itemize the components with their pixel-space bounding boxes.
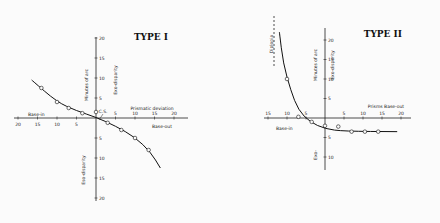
data-point (40, 86, 44, 90)
data-point (337, 125, 341, 129)
data-point (323, 124, 327, 128)
x-tick-label: 20 (398, 111, 404, 116)
y-tick-label: 10 (328, 155, 334, 160)
x-tick-label: 15 (379, 111, 385, 116)
data-point (55, 100, 59, 104)
data-point (106, 121, 110, 125)
x-tick-label: 10 (54, 122, 60, 127)
y-tick-label: 5 (99, 136, 102, 141)
x-tick-label: 5 (114, 111, 117, 116)
chart-title: TYPE II (364, 29, 402, 39)
exo-disparity-label: Exo-disparity (330, 50, 335, 80)
x-tick-label: 10 (132, 111, 138, 116)
exo-label: Exo- (313, 150, 318, 160)
chart-type-2: 1510551015202015105510TYPE IIPrisms Base… (264, 16, 411, 170)
y-tick-label: 20 (99, 36, 105, 41)
y-tick-label: 5 (99, 96, 102, 101)
x-tick-label: 5 (305, 111, 308, 116)
diplopia-label: Diplopia (269, 35, 274, 54)
eso-disparity-label: Eso-disparity (81, 155, 86, 185)
data-point (133, 136, 137, 140)
y-axis-label: Minutes of arc (84, 69, 89, 101)
y-tick-label: 20 (99, 196, 105, 201)
y-tick-label: 10 (99, 156, 105, 161)
y-tick-label: 5 (328, 135, 331, 140)
chart-title: TYPE I (134, 32, 168, 42)
x-axis-label: Prismatic deviation (130, 106, 173, 111)
exo-disparity-label: Exo-disparity (113, 65, 118, 95)
data-point (147, 148, 151, 152)
y-tick-label: 5 (328, 96, 331, 101)
base-in-label: Base-in (28, 112, 45, 117)
y-tick-label: 20 (328, 38, 334, 43)
data-point (67, 106, 71, 110)
x-tick-label: 20 (15, 122, 21, 127)
y-tick-label: 15 (99, 56, 105, 61)
data-point (285, 77, 289, 81)
x-tick-label: 15 (152, 111, 158, 116)
x-tick-label: 10 (284, 111, 290, 116)
x-tick-label: 15 (35, 122, 41, 127)
data-point (363, 130, 367, 134)
data-point (350, 130, 354, 134)
x-tick-label: 5 (75, 122, 78, 127)
cs-annotation: C.S. (99, 109, 108, 114)
y-axis-label: Minutes of arc (313, 49, 318, 81)
figure: 2015105510152020151055101520TYPE IPrisma… (0, 0, 440, 223)
base-in-label: Base-in (276, 126, 293, 131)
x-tick-label: 20 (171, 111, 177, 116)
data-point (81, 111, 85, 115)
chart-type-1: 2015105510152020151055101520TYPE IPrisma… (14, 32, 188, 201)
y-tick-label: 15 (99, 176, 105, 181)
base-out-label: Base-out (152, 124, 172, 129)
data-point (120, 128, 124, 132)
y-tick-label: 10 (99, 76, 105, 81)
x-tick-label: 5 (343, 111, 346, 116)
data-point (310, 120, 314, 124)
data-point (94, 110, 98, 114)
x-tick-label: 10 (360, 111, 366, 116)
data-point (297, 115, 301, 119)
x-axis-label: Prisms Base-out (368, 104, 405, 109)
data-point (376, 130, 380, 134)
x-tick-label: 15 (265, 111, 271, 116)
